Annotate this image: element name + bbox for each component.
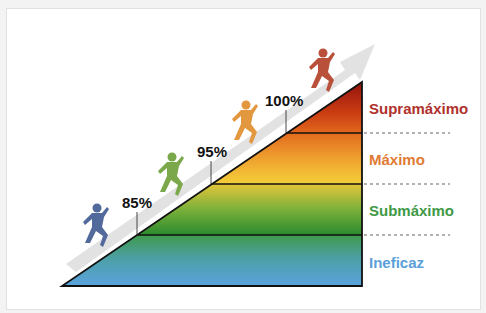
runner-blue-icon [83,204,109,248]
zone-label-supramaximo: Supramáximo [369,100,468,117]
threshold-95: 95% [197,143,227,160]
runner-red-icon [309,49,335,93]
band-supramaximo [60,78,365,133]
intensity-diagram: 85% 95% 100% Supramáximo Máximo Submáxim… [0,0,486,313]
zone-guides [364,133,450,235]
zone-label-submaximo: Submáximo [369,202,454,219]
threshold-100: 100% [265,92,303,109]
runner-green-icon [158,153,184,197]
zone-label-ineficaz: Ineficaz [369,254,424,271]
zone-label-maximo: Máximo [369,151,425,168]
runner-orange-icon [232,101,258,145]
threshold-85: 85% [122,194,152,211]
